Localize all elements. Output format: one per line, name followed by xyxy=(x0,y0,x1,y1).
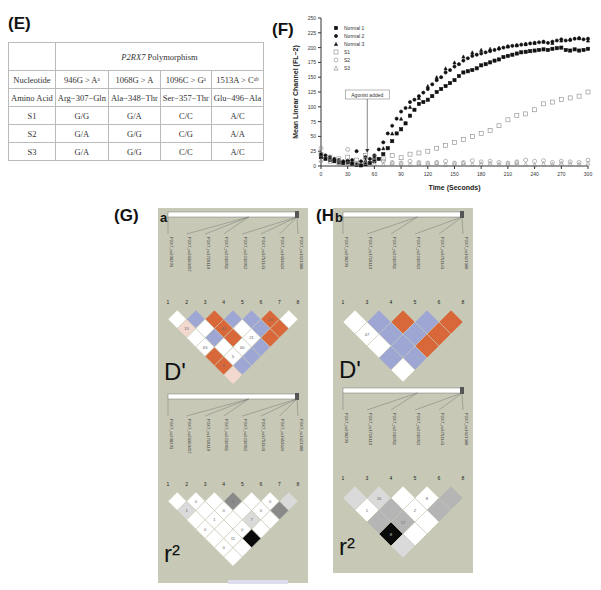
table-cell: 946G > Aᵃ xyxy=(55,71,108,89)
y-tick-label: 50 xyxy=(310,133,316,139)
snp-index: 1 xyxy=(342,299,345,305)
table-cell: G/G xyxy=(108,125,160,143)
row-label: S3 xyxy=(9,143,56,161)
sub-label-a: a xyxy=(160,210,167,225)
legend-entry: Normal 2 xyxy=(344,33,365,39)
gene-bar xyxy=(343,212,463,217)
row-label: Nucleotide xyxy=(9,71,56,89)
x-tick-label: 300 xyxy=(584,171,593,177)
snp-index: 4 xyxy=(390,475,393,481)
y-tick-label: 150 xyxy=(308,74,317,80)
ld-plot-g: P2X7_rs2082931P2X7_rs283604572P2X7_rs171… xyxy=(158,208,308,583)
table-cell: A/A xyxy=(211,125,263,143)
snp-label: P2X7_rs1718119 xyxy=(206,419,211,452)
snp-index: 8 xyxy=(297,481,300,487)
snp-label: P2X7_rs28360457 xyxy=(187,237,192,272)
y-tick-label: 175 xyxy=(308,59,317,65)
snp-label: P2X7_rs1653624 xyxy=(280,419,285,452)
snp-index: 8 xyxy=(297,299,300,305)
snp-index: 6 xyxy=(259,481,262,487)
r2-value: 17 xyxy=(401,520,406,525)
ld-panel-h: P2X7_rs2082931P2X7_rs17181193P2X7_rs2230… xyxy=(333,208,473,573)
panel-label-e: (E) xyxy=(8,14,31,34)
table-cell: 1068G > A xyxy=(108,71,160,89)
row-label: Amino Acid xyxy=(9,89,56,107)
table-row: S2 G/A G/G C/G A/A xyxy=(9,125,264,143)
footer-bar xyxy=(228,580,288,584)
r2-label: r² xyxy=(164,540,180,568)
snp-label: P2X7_rs1718119 xyxy=(368,413,373,446)
series-normal-3 xyxy=(319,37,589,166)
legend-entry: S2 xyxy=(344,57,350,63)
table-cell: Arg−307−Gln xyxy=(55,89,108,107)
dprime-value: 41 xyxy=(221,326,226,331)
gene-marker xyxy=(295,393,299,400)
table-row: S1 G/G G/A C/C A/C xyxy=(9,107,264,125)
table-cell: Ala−348−Thr xyxy=(108,89,160,107)
y-tick-label: 250 xyxy=(308,15,317,21)
gene-bar xyxy=(343,388,463,393)
snp-index: 1 xyxy=(342,475,345,481)
x-tick-label: 180 xyxy=(477,171,486,177)
legend-entry: S1 xyxy=(344,49,350,55)
panel-label-g: (G) xyxy=(114,206,139,226)
snp-label: P2X7_rs208293 xyxy=(169,419,174,450)
snp-label: P2X7_rs3751143 xyxy=(261,419,266,452)
snp-label: P2X7_rs2230911 xyxy=(392,237,397,270)
y-axis-label: Mean Linear Channel (FL−2) xyxy=(292,45,300,139)
table-cell: Glu−496−Ala xyxy=(211,89,263,107)
gene-bar xyxy=(168,394,298,399)
snp-index: 3 xyxy=(366,299,369,305)
snp-index: 4 xyxy=(222,299,225,305)
y-tick-label: 125 xyxy=(308,89,317,95)
y-tick-label: 100 xyxy=(308,104,317,110)
x-tick-label: 210 xyxy=(504,171,513,177)
gene-bar xyxy=(168,212,298,217)
header-text: Polymorphism xyxy=(145,52,197,62)
x-axis-label: Time (Seconds) xyxy=(429,184,481,192)
snp-label: P2X7_rs2230912 xyxy=(416,237,421,270)
snp-index: 6 xyxy=(438,475,441,481)
table-header-row: P2RX7 Polymorphism xyxy=(9,43,264,71)
table-cell: G/A xyxy=(55,125,108,143)
y-tick-label: 75 xyxy=(310,119,316,125)
y-tick-label: 225 xyxy=(308,30,317,36)
ld-panel-g: P2X7_rs2082931P2X7_rs283604572P2X7_rs171… xyxy=(158,208,308,583)
snp-index: 5 xyxy=(241,299,244,305)
x-tick-label: 90 xyxy=(398,171,404,177)
snp-label: P2X7_rs3751143 xyxy=(261,237,266,270)
snp-label: P2X7_rs1621388 xyxy=(464,237,469,270)
snp-index: 8 xyxy=(462,475,465,481)
snp-label: P2X7_rs1718119 xyxy=(368,237,373,270)
snp-index: 2 xyxy=(185,299,188,305)
snp-label: P2X7_rs28360457 xyxy=(187,419,192,454)
gene-marker xyxy=(460,211,464,218)
table-cell: C/C xyxy=(160,143,211,161)
r2-value: 11 xyxy=(231,536,236,541)
x-tick-label: 150 xyxy=(450,171,459,177)
snp-label: P2X7_rs208293 xyxy=(344,413,349,444)
snp-index: 7 xyxy=(278,481,281,487)
gene-marker xyxy=(295,211,299,218)
dprime-label: D' xyxy=(339,356,361,384)
chart-legend: Normal 1Normal 2Normal 3S1S2S3 xyxy=(334,25,365,71)
table-cell: 1096C > Gᵃ xyxy=(160,71,211,89)
snp-index: 5 xyxy=(414,299,417,305)
table-cell: C/C xyxy=(160,107,211,125)
snp-label: P2X7_rs1621388 xyxy=(299,419,304,452)
legend-entry: Normal 3 xyxy=(344,41,365,47)
table-cell: G/A xyxy=(55,143,108,161)
y-tick-label: 200 xyxy=(308,45,317,51)
snp-label: P2X7_rs2230911 xyxy=(224,237,229,270)
snp-index: 3 xyxy=(366,475,369,481)
table-cell: Ser−357−Thr xyxy=(160,89,211,107)
x-tick-label: 30 xyxy=(345,171,351,177)
snp-index: 1 xyxy=(167,481,170,487)
table-corner-cell xyxy=(9,43,56,71)
snp-index: 3 xyxy=(204,299,207,305)
snp-label: P2X7_rs208293 xyxy=(344,237,349,268)
y-tick-label: 25 xyxy=(310,148,316,154)
annotation-text: Agonist added xyxy=(351,92,383,98)
series-normal-2 xyxy=(319,37,589,163)
x-tick-label: 120 xyxy=(424,171,433,177)
